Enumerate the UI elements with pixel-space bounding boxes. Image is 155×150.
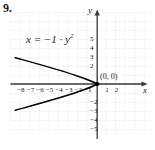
y-tick-label: −5 [90, 125, 97, 133]
x-tick-label: −2 [74, 86, 81, 94]
y-tick-label: −2 [90, 98, 97, 106]
equation-text: x = −1 · y [26, 33, 70, 45]
vertex-point [95, 82, 99, 86]
x-tick-label: 1 [105, 86, 109, 94]
equation-label: x = −1 · y2 [26, 33, 73, 45]
x-tick-label: −5 [46, 86, 53, 94]
x-tick-label: −8 [17, 86, 24, 94]
equation-exponent: 2 [70, 32, 74, 40]
x-tick-label: −7 [27, 86, 34, 94]
grid [10, 12, 153, 135]
y-tick-label: 4 [90, 44, 94, 52]
x-tick-label: −6 [36, 86, 43, 94]
y-tick-label: −3 [90, 107, 97, 115]
y-tick-label: 5 [90, 35, 94, 43]
x-tick-label: −1 [84, 86, 91, 94]
x-tick-label: −4 [55, 86, 62, 94]
x-axis-label: x [143, 85, 147, 95]
y-tick-label: 3 [90, 53, 94, 61]
origin-point-label: (0, 0) [100, 72, 117, 81]
y-tick-label: −4 [90, 116, 97, 124]
x-tick-label: 2 [115, 86, 119, 94]
y-tick-label: 2 [90, 62, 94, 70]
x-tick-label: −3 [65, 86, 72, 94]
parabola-figure: 9. x = −1 · y2 (0, 0) y x −8 −7 −6 −5 −4… [0, 0, 155, 150]
coordinate-plane [0, 0, 155, 150]
y-axis-label: y [88, 5, 92, 15]
